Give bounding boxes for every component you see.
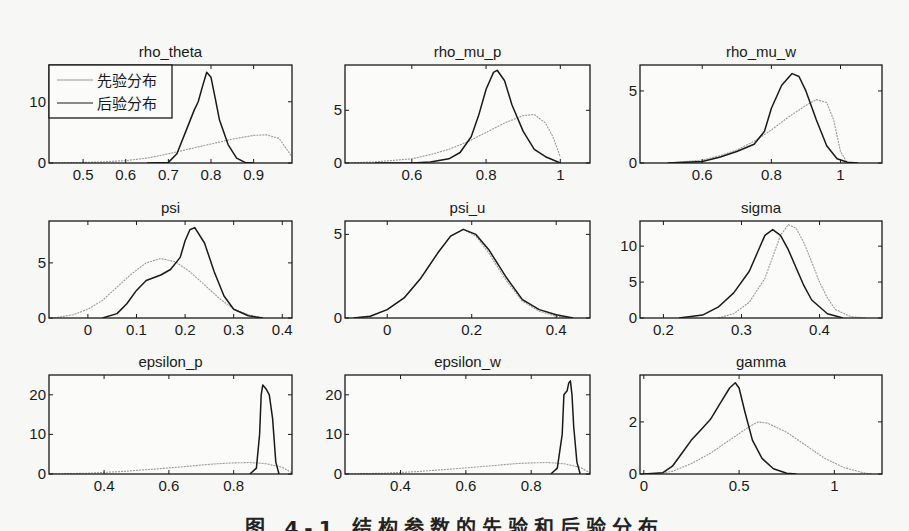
subplot-title: rho_mu_w xyxy=(726,43,796,60)
figure-caption: 图 4-1 结构参数的先验和后验分布 xyxy=(0,513,909,531)
subplot-title: psi_u xyxy=(450,199,486,216)
x-tick-label: 0.8 xyxy=(521,477,542,494)
subplot-title: gamma xyxy=(736,353,787,370)
y-tick-label: 2 xyxy=(629,413,637,430)
y-tick-label: 5 xyxy=(629,82,637,99)
y-tick-label: 5 xyxy=(334,101,342,118)
x-tick-label: 0.8 xyxy=(761,166,782,183)
x-tick-label: 0.6 xyxy=(115,166,136,183)
subplot-rho-mu-w: rho_mu_w0.60.8105 xyxy=(629,43,882,183)
y-tick-label: 5 xyxy=(334,225,342,242)
y-tick-label: 0 xyxy=(334,465,342,482)
x-tick-label: 0.2 xyxy=(653,321,674,338)
y-tick-label: 0 xyxy=(629,154,637,171)
subplot-sigma: sigma0.20.30.40510 xyxy=(620,199,882,338)
x-tick-label: 0.9 xyxy=(243,166,264,183)
y-tick-label: 10 xyxy=(29,425,46,442)
y-tick-label: 0 xyxy=(629,465,637,482)
y-tick-label: 0 xyxy=(38,154,46,171)
y-tick-label: 10 xyxy=(29,93,46,110)
x-tick-label: 0 xyxy=(383,321,391,338)
x-tick-label: 0.6 xyxy=(455,477,476,494)
x-tick-label: 0.8 xyxy=(223,477,244,494)
x-tick-label: 0.8 xyxy=(201,166,222,183)
subplot-title: sigma xyxy=(741,199,782,216)
x-tick-label: 0.2 xyxy=(461,321,482,338)
x-tick-label: 0.6 xyxy=(401,166,422,183)
posterior-prior-figure: rho_theta0.50.60.70.80.9010先验分布后验分布rho_m… xyxy=(0,0,909,531)
x-tick-label: 0.4 xyxy=(546,321,567,338)
x-tick-label: 0.4 xyxy=(272,321,293,338)
y-tick-label: 0 xyxy=(334,309,342,326)
y-tick-label: 10 xyxy=(620,237,637,254)
x-tick-label: 0.5 xyxy=(729,477,750,494)
y-tick-label: 20 xyxy=(325,386,342,403)
legend-posterior-label: 后验分布 xyxy=(97,95,157,113)
y-tick-label: 0 xyxy=(629,309,637,326)
subplot-title: epsilon_w xyxy=(434,353,501,370)
subplot-gamma: gamma00.5102 xyxy=(629,353,882,494)
y-tick-label: 0 xyxy=(334,154,342,171)
legend: 先验分布后验分布 xyxy=(49,65,172,118)
x-tick-label: 1 xyxy=(830,477,838,494)
x-tick-label: 0.4 xyxy=(809,321,830,338)
x-tick-label: 0.3 xyxy=(223,321,244,338)
subplot-epsilon-p: epsilon_p0.40.60.801020 xyxy=(29,353,292,494)
subplot-title: rho_mu_p xyxy=(434,43,502,60)
y-tick-label: 5 xyxy=(629,273,637,290)
x-tick-label: 0.6 xyxy=(692,166,713,183)
x-tick-label: 0.6 xyxy=(158,477,179,494)
y-tick-label: 0 xyxy=(38,465,46,482)
legend-prior-label: 先验分布 xyxy=(97,72,157,90)
x-tick-label: 1 xyxy=(836,166,844,183)
x-tick-label: 0.8 xyxy=(476,166,497,183)
x-tick-label: 0 xyxy=(84,321,92,338)
x-tick-label: 0.3 xyxy=(731,321,752,338)
y-tick-label: 20 xyxy=(29,386,46,403)
y-tick-label: 5 xyxy=(38,254,46,271)
x-tick-label: 0 xyxy=(640,477,648,494)
subplot-title: psi xyxy=(161,199,180,216)
x-tick-label: 1 xyxy=(556,166,564,183)
x-tick-label: 0.7 xyxy=(158,166,179,183)
x-tick-label: 0.2 xyxy=(175,321,196,338)
subplot-epsilon-w: epsilon_w0.40.60.801020 xyxy=(325,353,590,494)
x-tick-label: 0.4 xyxy=(94,477,115,494)
y-tick-label: 10 xyxy=(325,425,342,442)
x-tick-label: 0.1 xyxy=(126,321,147,338)
y-tick-label: 0 xyxy=(38,309,46,326)
subplot-rho-mu-p: rho_mu_p0.60.8105 xyxy=(334,43,590,183)
subplot-psi-u: psi_u00.20.405 xyxy=(334,199,590,338)
subplot-title: epsilon_p xyxy=(138,353,202,370)
subplot-rho-theta: rho_theta0.50.60.70.80.9010先验分布后验分布 xyxy=(29,43,292,183)
subplot-title: rho_theta xyxy=(139,43,203,60)
x-tick-label: 0.5 xyxy=(73,166,94,183)
subplot-psi: psi00.10.20.30.405 xyxy=(38,199,293,338)
x-tick-label: 0.4 xyxy=(390,477,411,494)
